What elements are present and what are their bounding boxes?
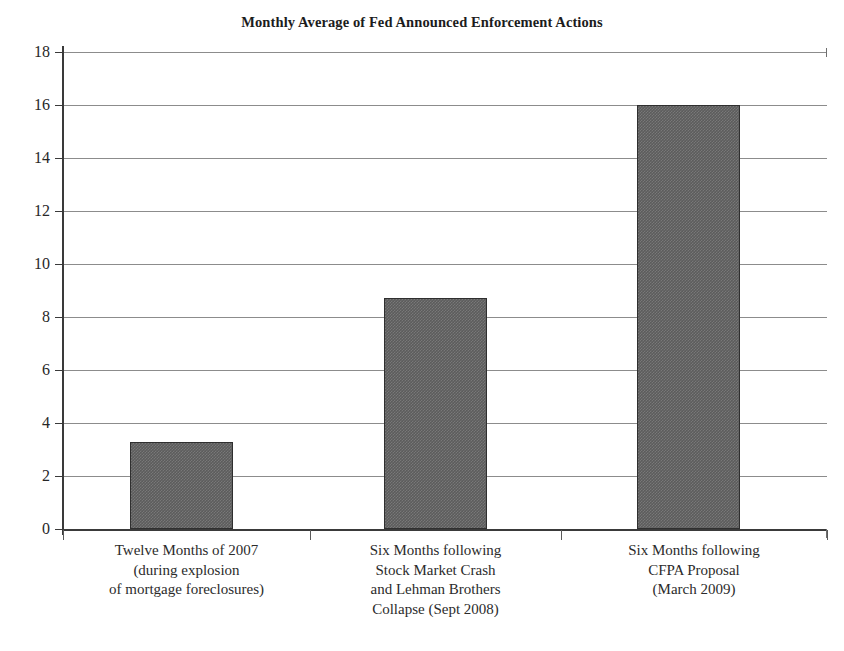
x-axis-category-label-2: Six Months followingStock Market Crashan… [310,541,561,619]
x-axis-tick [561,530,562,540]
y-axis-tick [55,317,64,318]
x-axis-tick [827,530,828,540]
y-axis-tick [55,423,64,424]
x-axis-category-label-3: Six Months followingCFPA Proposal(March … [561,541,827,600]
axis-baseline [63,529,827,531]
gridline [63,52,827,53]
bar-2 [384,298,487,529]
y-axis-tick-label: 4 [4,415,50,431]
category-label-line: Twelve Months of 2007 [63,541,310,561]
category-label-line: (March 2009) [561,580,827,600]
bar-3 [637,105,740,529]
chart-title: Monthly Average of Fed Announced Enforce… [0,14,844,31]
y-axis-labels: 181614121086420 [0,0,50,651]
y-axis-tick [55,105,64,106]
category-label-line: Collapse (Sept 2008) [310,600,561,620]
category-label-line: CFPA Proposal [561,561,827,581]
plot-area [63,52,827,529]
y-axis-tick-label: 0 [4,521,50,537]
y-axis-tick [55,211,64,212]
y-axis-tick [55,264,64,265]
category-label-line: and Lehman Brothers [310,580,561,600]
category-label-line: of mortgage foreclosures) [63,580,310,600]
y-axis-tick-label: 2 [4,468,50,484]
y-axis-tick-label: 12 [4,203,50,219]
category-label-line: Six Months following [561,541,827,561]
y-axis-tick-label: 6 [4,362,50,378]
y-axis-tick-label: 8 [4,309,50,325]
y-axis-tick-label: 16 [4,97,50,113]
x-axis-tick [310,530,311,540]
category-label-line: Stock Market Crash [310,561,561,581]
y-axis-tick-label: 18 [4,44,50,60]
gridline-end-cap [826,48,827,57]
x-axis-tick [63,530,64,540]
y-axis-tick [55,52,64,53]
bar-chart-figure: Monthly Average of Fed Announced Enforce… [0,0,844,651]
y-axis-tick-label: 14 [4,150,50,166]
y-axis-tick [55,158,64,159]
category-label-line: (during explosion [63,561,310,581]
y-axis-tick [55,370,64,371]
x-axis-category-label-1: Twelve Months of 2007(during explosionof… [63,541,310,600]
category-label-line: Six Months following [310,541,561,561]
y-axis-tick-label: 10 [4,256,50,272]
bar-1 [130,442,233,529]
y-axis-tick [55,476,64,477]
